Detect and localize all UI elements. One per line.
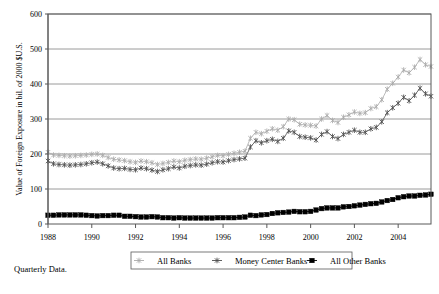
data-point: [237, 215, 242, 220]
data-point: [89, 213, 94, 218]
data-point: [51, 213, 56, 218]
data-point: [379, 200, 384, 205]
data-point: [101, 161, 105, 167]
chart-canvas: 0100200300400500600198819901992199419961…: [0, 0, 439, 294]
data-point: [155, 215, 160, 220]
data-point: [418, 193, 423, 198]
data-point: [150, 214, 155, 219]
data-point: [144, 215, 149, 220]
data-point: [84, 213, 89, 218]
data-point: [407, 70, 411, 76]
x-tick-label-2000: 2000: [303, 233, 319, 242]
data-point: [330, 118, 334, 124]
x-tick-label-1990: 1990: [84, 233, 100, 242]
data-point: [374, 201, 379, 206]
chart-caption: Quarterly Data.: [14, 264, 67, 274]
data-point: [265, 128, 269, 134]
data-point: [407, 98, 411, 104]
data-point: [423, 91, 427, 97]
data-point: [363, 202, 368, 207]
data-point: [68, 213, 73, 218]
data-point: [352, 127, 356, 133]
x-tick-label-2002: 2002: [346, 233, 362, 242]
data-point: [276, 139, 280, 145]
data-point: [374, 104, 378, 110]
data-point: [396, 195, 401, 200]
data-point: [314, 208, 319, 213]
data-point: [303, 209, 308, 214]
data-point: [281, 210, 286, 215]
data-point: [412, 64, 416, 70]
data-point: [188, 216, 193, 221]
data-point: [401, 95, 405, 101]
data-point: [369, 106, 373, 112]
data-point: [319, 132, 323, 138]
data-point: [106, 213, 111, 218]
data-point: [172, 216, 177, 221]
data-point: [215, 215, 220, 220]
data-point: [391, 81, 395, 87]
data-point: [336, 120, 340, 126]
data-point: [139, 215, 144, 220]
data-point: [100, 213, 105, 218]
data-point: [95, 214, 100, 219]
data-point: [265, 212, 270, 217]
data-point: [221, 215, 226, 220]
data-point: [276, 211, 281, 216]
data-point: [106, 163, 110, 169]
data-point: [418, 57, 422, 63]
data-point: [308, 209, 313, 214]
data-point: [259, 140, 263, 146]
data-point: [341, 114, 345, 120]
data-point: [330, 206, 335, 211]
data-point: [319, 206, 324, 211]
data-point: [177, 215, 182, 220]
x-tick-label-1998: 1998: [259, 233, 275, 242]
data-point: [166, 215, 171, 220]
data-point: [347, 112, 351, 118]
data-point: [122, 214, 127, 219]
data-point: [232, 215, 237, 220]
data-point: [396, 100, 400, 106]
data-point: [385, 86, 389, 92]
legend-label-1: Money Center Banks: [235, 256, 307, 266]
data-point: [57, 213, 62, 218]
data-point: [352, 204, 357, 209]
data-point: [423, 62, 427, 68]
y-axis-title: Value of Foreign Exposure in bil. of 200…: [15, 42, 24, 196]
data-point: [193, 216, 198, 221]
data-point: [281, 135, 285, 141]
data-point: [248, 135, 252, 141]
series-all-banks: [46, 57, 433, 168]
data-point: [210, 216, 215, 221]
data-point: [412, 92, 416, 98]
data-point: [254, 213, 259, 218]
data-point: [401, 67, 405, 73]
data-point: [111, 213, 116, 218]
chart-figure: 0100200300400500600198819901992199419961…: [0, 0, 439, 294]
data-point: [330, 134, 334, 140]
x-tick-label-1994: 1994: [171, 233, 187, 242]
data-point: [325, 113, 329, 119]
data-point: [390, 197, 395, 202]
data-series-group: [46, 57, 434, 221]
x-tick-label-1992: 1992: [128, 233, 144, 242]
data-point: [161, 215, 166, 220]
data-point: [385, 198, 390, 203]
data-point: [128, 214, 133, 219]
data-point: [325, 129, 329, 135]
y-tick-label-100: 100: [30, 185, 42, 194]
data-point: [117, 213, 122, 218]
data-point: [297, 209, 302, 214]
data-point: [401, 194, 406, 199]
series-line: [48, 194, 431, 218]
data-point: [133, 214, 138, 219]
data-point: [243, 215, 248, 220]
data-point: [281, 124, 285, 130]
data-point: [407, 194, 412, 199]
y-tick-label-200: 200: [30, 150, 42, 159]
data-point: [204, 216, 209, 221]
data-point: [79, 213, 84, 218]
gridlines-group: [48, 14, 431, 189]
data-point: [358, 203, 363, 208]
